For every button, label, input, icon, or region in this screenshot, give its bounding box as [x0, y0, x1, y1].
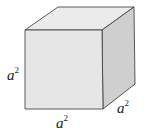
- height-label: a2: [7, 65, 19, 83]
- cube-front-face: [25, 30, 103, 109]
- depth-label: a2: [117, 98, 129, 116]
- cube-diagram: a2 a2 a2: [0, 0, 144, 136]
- width-label: a2: [56, 113, 68, 131]
